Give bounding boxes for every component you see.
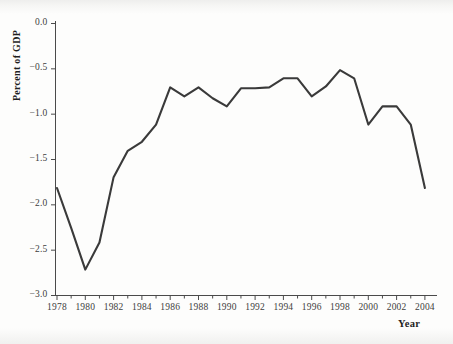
x-axis-title: Year <box>398 318 420 329</box>
y-tick-label: −1.0 <box>0 108 48 118</box>
chart-plot-area <box>0 0 453 344</box>
x-tick-label: 2004 <box>405 302 445 312</box>
y-tick-label: −2.0 <box>0 198 48 208</box>
axes-group <box>56 21 438 296</box>
y-tick-label: 0.0 <box>0 17 48 27</box>
y-tick-label: −0.5 <box>0 62 48 72</box>
chart-container: 0.0−0.5−1.0−1.5−2.0−2.5−3.0 197819801982… <box>0 0 453 344</box>
y-axis-title: Percent of GDP <box>11 16 22 116</box>
y-tick-label: −1.5 <box>0 153 48 163</box>
y-tick-label: −3.0 <box>0 289 48 299</box>
data-series-line <box>57 70 425 269</box>
y-ticks-group <box>51 24 56 296</box>
y-tick-label: −2.5 <box>0 244 48 254</box>
